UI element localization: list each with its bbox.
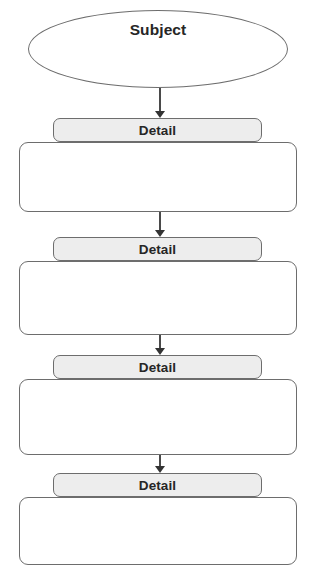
detail-header-3[interactable]: Detail (53, 355, 262, 379)
arrowhead-icon (155, 230, 165, 237)
connector-line (159, 88, 161, 112)
arrowhead-icon (155, 466, 165, 473)
connector-detail-2-to-detail-3 (159, 335, 161, 355)
detail-body-2[interactable] (19, 261, 297, 335)
connector-subject-to-detail-1 (159, 88, 161, 118)
detail-body-4[interactable] (19, 497, 297, 565)
detail-body-1[interactable] (19, 142, 297, 212)
connector-detail-1-to-detail-2 (159, 212, 161, 237)
detail-header-label-2: Detail (54, 238, 261, 260)
detail-header-4[interactable]: Detail (53, 473, 262, 497)
subject-label: Subject (29, 21, 287, 40)
detail-header-label-1: Detail (54, 119, 261, 141)
connector-line (159, 212, 161, 231)
detail-body-3[interactable] (19, 379, 297, 455)
arrowhead-icon (155, 348, 165, 355)
detail-header-1[interactable]: Detail (53, 118, 262, 142)
detail-header-label-4: Detail (54, 474, 261, 496)
subject-node[interactable]: Subject (28, 10, 288, 88)
arrowhead-icon (155, 111, 165, 118)
connector-detail-3-to-detail-4 (159, 455, 161, 473)
detail-header-label-3: Detail (54, 356, 261, 378)
connector-line (159, 335, 161, 349)
diagram-canvas: Subject Detail Detail Detail (0, 0, 315, 579)
detail-header-2[interactable]: Detail (53, 237, 262, 261)
